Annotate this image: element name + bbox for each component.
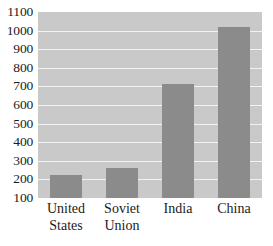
bars-layer bbox=[38, 12, 262, 198]
x-axis: UnitedStatesSovietUnionIndiaChina bbox=[38, 200, 262, 246]
y-tick-label-400: 400 bbox=[13, 135, 33, 149]
bar-india bbox=[162, 84, 194, 198]
bar-united-states bbox=[50, 175, 82, 198]
y-tick-label-800: 800 bbox=[13, 61, 33, 75]
chart-screenshot: 11001000900800700600500400300200100 Unit… bbox=[0, 0, 273, 246]
y-tick-label-500: 500 bbox=[13, 117, 33, 131]
y-tick-label-1000: 1000 bbox=[7, 24, 33, 38]
y-tick-label-300: 300 bbox=[13, 154, 33, 168]
bar-china bbox=[218, 27, 250, 198]
x-axis-label-line: China bbox=[206, 200, 262, 217]
x-axis-label-line: India bbox=[150, 200, 206, 217]
bar-soviet-union bbox=[106, 168, 138, 198]
y-tick-label-700: 700 bbox=[13, 80, 33, 94]
x-axis-label-china: China bbox=[206, 200, 262, 217]
y-tick-label-1100: 1100 bbox=[7, 5, 33, 19]
y-axis: 11001000900800700600500400300200100 bbox=[0, 8, 36, 198]
chart-title-cropped bbox=[36, 0, 226, 1]
x-axis-label-line: States bbox=[38, 217, 94, 234]
y-tick-label-200: 200 bbox=[13, 173, 33, 187]
x-axis-label-united-states: UnitedStates bbox=[38, 200, 94, 234]
y-tick-label-100: 100 bbox=[13, 191, 33, 205]
y-tick-label-600: 600 bbox=[13, 98, 33, 112]
x-axis-label-soviet-union: SovietUnion bbox=[94, 200, 150, 234]
x-axis-label-line: Union bbox=[94, 217, 150, 234]
plot-area bbox=[38, 12, 262, 198]
y-tick-label-900: 900 bbox=[13, 42, 33, 56]
x-axis-label-line: Soviet bbox=[94, 200, 150, 217]
x-axis-label-india: India bbox=[150, 200, 206, 217]
x-axis-label-line: United bbox=[38, 200, 94, 217]
